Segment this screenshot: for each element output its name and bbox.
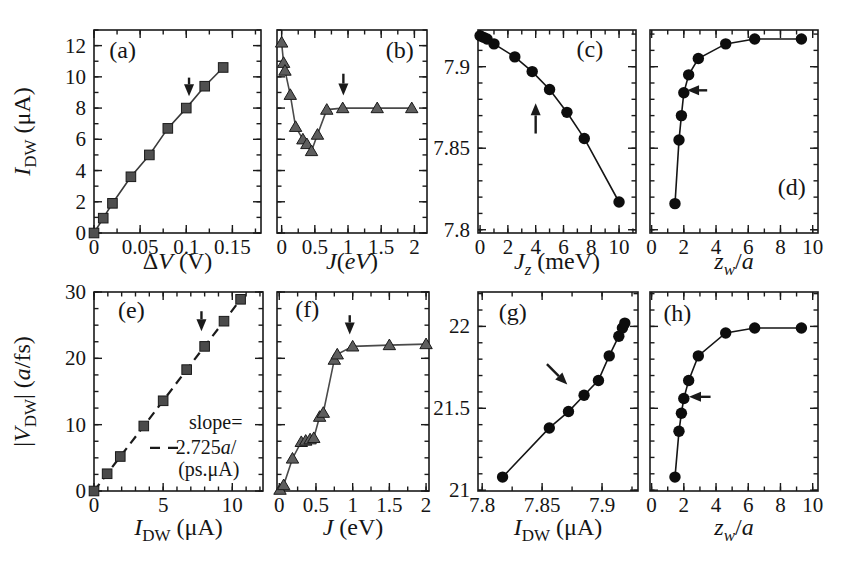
figure-container: 00.050.10.15024681012(a)ΔV (V)IDW (μA)00… <box>0 0 862 576</box>
x-tick-label: 5 <box>158 493 169 517</box>
x-tick-label: 10 <box>609 235 630 259</box>
x-axis-title: ΔV (V) <box>143 248 212 274</box>
x-tick-label: 0 <box>89 235 100 259</box>
legend-text: slope= <box>189 411 243 434</box>
x-tick-label: 0 <box>646 235 657 259</box>
x-tick-label: 2 <box>409 235 420 259</box>
x-tick-label: 7.8 <box>469 493 495 517</box>
x-tick-label: 0 <box>89 493 100 517</box>
y-tick-label: 10 <box>65 65 86 89</box>
x-tick-label: 2 <box>503 235 514 259</box>
y-tick-label: 0 <box>76 221 87 245</box>
panel-label: (b) <box>386 37 414 63</box>
panel-label: (c) <box>577 36 604 62</box>
x-tick-label: 0 <box>276 235 287 259</box>
y-tick-label: 10 <box>65 413 86 437</box>
y-tick-label: 22 <box>449 314 470 338</box>
y-tick-label: 8 <box>76 96 87 120</box>
panel-label: (h) <box>663 300 691 326</box>
y-tick-label: 21.5 <box>433 396 470 420</box>
x-tick-label: 0.5 <box>302 235 328 259</box>
y-tick-label: 20 <box>65 346 86 370</box>
x-axis-title: J(eV) <box>326 248 378 274</box>
x-tick-label: 2 <box>679 493 690 517</box>
legend-text: (ps.μA) <box>178 458 239 481</box>
x-axis-title: J (eV) <box>323 514 384 540</box>
x-tick-label: 2 <box>679 235 690 259</box>
x-tick-label: 10 <box>802 235 823 259</box>
x-tick-label: 10 <box>802 493 823 517</box>
y-tick-label: 7.85 <box>433 136 470 160</box>
y-tick-label: 7.9 <box>444 55 470 79</box>
panel-label: (g) <box>499 299 527 325</box>
y-tick-label: 2 <box>76 190 87 214</box>
x-tick-label: 0 <box>274 493 285 517</box>
figure: 00.050.10.15024681012(a)ΔV (V)IDW (μA)00… <box>0 0 862 576</box>
x-tick-label: 0 <box>475 235 486 259</box>
panel-label: (f) <box>295 296 319 322</box>
y-tick-label: 21 <box>449 478 470 502</box>
y-tick-label: 7.8 <box>444 218 470 242</box>
panel-label: (a) <box>109 37 136 63</box>
y-tick-label: 4 <box>76 159 87 183</box>
x-tick-label: 0.15 <box>214 235 251 259</box>
legend-text: 2.725a/ <box>176 436 237 458</box>
y-tick-label: 0 <box>76 479 87 503</box>
panel-label: (d) <box>778 174 806 200</box>
x-tick-label: 0 <box>646 493 657 517</box>
x-tick-label: 8 <box>775 493 786 517</box>
x-tick-label: 10 <box>222 493 243 517</box>
panel-label: (e) <box>118 297 145 323</box>
y-tick-label: 12 <box>65 34 86 58</box>
x-tick-label: 8 <box>775 235 786 259</box>
y-tick-label: 6 <box>76 127 87 151</box>
y-tick-label: 30 <box>65 280 86 304</box>
x-tick-label: 2 <box>421 493 432 517</box>
